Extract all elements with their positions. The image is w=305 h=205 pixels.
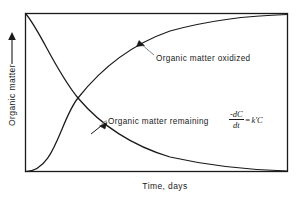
x-axis-label: Time, days <box>120 181 210 191</box>
plot-area <box>0 0 305 205</box>
annotation-organic-matter-remaining: Organic matter remaining <box>108 117 209 126</box>
equation-right-side: k'C <box>252 115 263 125</box>
equation-fraction: -dC dt <box>229 110 244 129</box>
curve-organic-matter-remaining <box>26 14 288 172</box>
figure-container: Organic matter Time, days Organic matter… <box>0 0 305 205</box>
equation-numerator: -dC <box>229 110 244 119</box>
curve-organic-matter-oxidized <box>26 15 288 172</box>
annotation-organic-matter-oxidized: Organic matter oxidized <box>156 54 251 63</box>
leader-tail-remaining <box>91 126 101 134</box>
equation-relation: = <box>245 115 251 125</box>
y-axis-label: Organic matter <box>7 35 17 155</box>
rate-equation: -dC dt = k'C <box>229 110 263 129</box>
y-axis-label-block: Organic matter <box>0 30 24 175</box>
arrowhead-oxidized <box>137 41 145 47</box>
equation-denominator: dt <box>232 121 241 130</box>
plot-frame <box>26 14 288 172</box>
